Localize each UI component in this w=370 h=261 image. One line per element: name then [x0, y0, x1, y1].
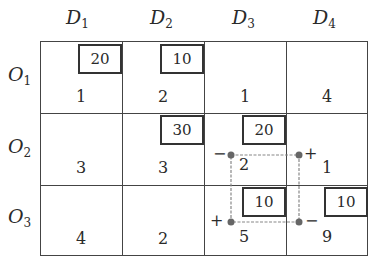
cycle-sign-o3-d3: + — [210, 211, 223, 230]
cost-o2-d2: 3 — [158, 158, 168, 177]
cycle-node-icon — [296, 219, 303, 226]
cycle-node-icon — [228, 152, 235, 159]
cost-o2-d4: 1 — [322, 158, 332, 177]
cost-o3-d1: 4 — [76, 229, 86, 248]
cost-o2-d1: 3 — [76, 158, 86, 177]
cost-o1-d1: 1 — [76, 87, 86, 106]
cost-o3-d2: 2 — [158, 229, 168, 248]
cost-o3-d4: 9 — [322, 227, 332, 246]
cycle-sign-o2-d3: − — [213, 144, 226, 163]
cycle-sign-o3-d4: − — [305, 211, 318, 230]
cost-o1-d2: 2 — [158, 87, 168, 106]
cycle-sign-o2-d4: + — [304, 144, 317, 163]
cost-o1-d3: 1 — [240, 87, 250, 106]
cost-o2-d3: 2 — [239, 155, 249, 174]
cost-o3-d3: 5 — [239, 227, 249, 246]
cycle-node-icon — [228, 219, 235, 226]
cycle-node-icon — [296, 152, 303, 159]
cost-o1-d4: 4 — [322, 87, 332, 106]
